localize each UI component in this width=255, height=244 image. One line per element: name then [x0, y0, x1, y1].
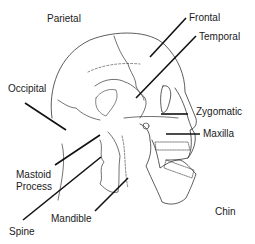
label-frontal: Frontal: [189, 12, 220, 23]
label-mastoid-line2: Process: [16, 181, 52, 192]
label-parietal: Parietal: [47, 13, 81, 24]
zygomatic-arch: [124, 117, 178, 119]
label-chin: Chin: [215, 206, 236, 217]
squamous-suture: [95, 79, 146, 118]
label-spine: Spine: [9, 226, 35, 237]
label-mastoid-line1: Mastoid: [16, 169, 51, 180]
label-occipital: Occipital: [8, 83, 46, 94]
ear-outline: [161, 86, 171, 113]
lambdoid-suture: [58, 100, 100, 120]
mandible-outline: [140, 124, 196, 204]
leader-mastoid: [55, 135, 100, 165]
label-mandible: Mandible: [51, 213, 92, 224]
label-maxilla: Maxilla: [203, 128, 234, 139]
label-temporal: Temporal: [199, 31, 240, 42]
upper-teeth: [155, 142, 190, 150]
leader-temporal: [136, 36, 196, 98]
skull-diagram: Parietal Frontal Temporal Occipital Zygo…: [0, 0, 255, 244]
leader-occipital: [25, 103, 66, 130]
face-profile: [175, 88, 195, 158]
cervical-spine: [100, 132, 120, 193]
leader-mandible: [95, 178, 128, 211]
temporal-line: [88, 63, 140, 72]
cranium-outline: [51, 33, 196, 160]
temporal-bone-region: [96, 89, 117, 116]
coronal-suture: [114, 36, 144, 100]
label-zygomatic: Zygomatic: [196, 106, 242, 117]
